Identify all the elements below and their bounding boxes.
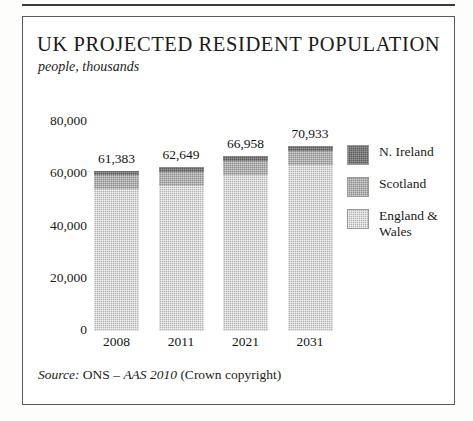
source-prefix: Source:: [38, 367, 79, 382]
bar-segment-england-wales: [288, 165, 333, 331]
bar-2011: [159, 167, 204, 331]
legend-label: N. Ireland: [379, 144, 457, 160]
page-background: UK PROJECTED RESIDENT POPULATION people,…: [0, 0, 473, 421]
bar-2021: [223, 156, 268, 331]
legend-item-n-ireland[interactable]: N. Ireland: [347, 145, 455, 167]
bar-segment-scotland: [223, 161, 268, 175]
legend-swatch-icon: [347, 145, 369, 165]
page-top-rule: [22, 4, 455, 6]
y-axis-tick-label: 20,000: [15, 270, 87, 286]
bar-segment-scotland: [94, 175, 139, 189]
chart-source: Source: ONS – AAS 2010 (Crown copyright): [38, 367, 281, 383]
bar-2031: [288, 146, 333, 331]
source-publication: AAS 2010: [123, 367, 177, 382]
bar-segment-scotland: [288, 151, 333, 166]
bar-segment-england-wales: [94, 189, 139, 331]
bar-value-label: 70,933: [270, 126, 350, 142]
bar-segment-england-wales: [159, 186, 204, 331]
legend-label: Scotland: [379, 176, 457, 192]
source-suffix: (Crown copyright): [177, 367, 281, 382]
legend-swatch-icon: [347, 209, 369, 229]
legend-item-scotland[interactable]: Scotland: [347, 177, 455, 199]
y-axis-tick-label: 60,000: [15, 165, 87, 181]
legend-swatch-icon: [347, 177, 369, 197]
bar-2008: [94, 171, 139, 331]
bar-segment-scotland: [159, 172, 204, 186]
legend-item-england-wales[interactable]: England & Wales: [347, 209, 455, 245]
source-body: ONS –: [79, 367, 123, 382]
x-axis-tick-label-2031: 2031: [270, 334, 350, 350]
y-axis-tick-label: 40,000: [15, 218, 87, 234]
y-axis-tick-label: 80,000: [15, 113, 87, 129]
bar-segment-england-wales: [223, 175, 268, 331]
figure-box: UK PROJECTED RESIDENT POPULATION people,…: [22, 16, 455, 405]
legend-label: England & Wales: [379, 208, 457, 240]
